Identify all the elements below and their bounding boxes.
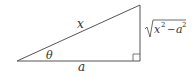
opposite-label: x 2 − a 2 [145,20,186,37]
opposite-exp1: 2 [161,21,165,29]
hypotenuse-label: x [77,17,84,31]
angle-label: θ [46,49,53,62]
right-triangle [17,5,140,61]
triangle-diagram: x θ a x 2 − a 2 [0,0,196,77]
opposite-exp2: 2 [182,21,186,29]
opposite-base1: x [154,23,161,36]
right-angle-marker [133,54,140,61]
adjacent-label: a [78,60,85,74]
opposite-minus: − [167,24,175,35]
